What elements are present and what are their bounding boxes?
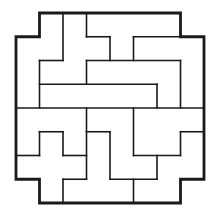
tiling-puzzle: [0, 0, 219, 219]
piece-borders: [16, 13, 204, 203]
